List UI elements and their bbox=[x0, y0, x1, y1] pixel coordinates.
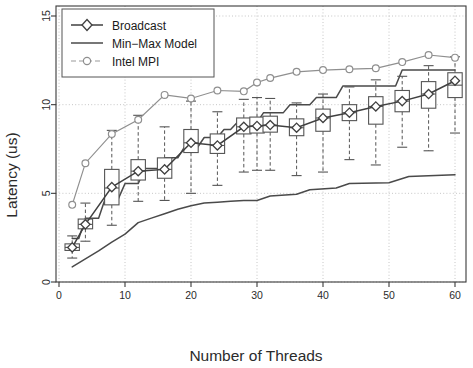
y-tick-label: 0 bbox=[40, 279, 52, 285]
intel-mpi-point bbox=[214, 87, 221, 94]
intel-mpi-point bbox=[346, 66, 353, 73]
y-tick-label: 5 bbox=[40, 190, 52, 196]
intel-mpi-point bbox=[320, 67, 327, 74]
intel-mpi-point bbox=[188, 95, 195, 102]
legend-label-broadcast: Broadcast bbox=[112, 19, 167, 33]
circle-marker-icon bbox=[83, 57, 90, 64]
intel-mpi-point bbox=[399, 59, 406, 66]
intel-mpi-point bbox=[135, 116, 142, 123]
intel-mpi-point bbox=[82, 160, 89, 167]
legend-label-minmax-model: Min−Max Model bbox=[112, 37, 197, 51]
legend-label-intel-mpi: Intel MPI bbox=[112, 55, 159, 69]
intel-mpi-point bbox=[425, 52, 432, 59]
intel-mpi-point bbox=[161, 92, 168, 99]
intel-mpi-point bbox=[293, 68, 300, 75]
intel-mpi-point bbox=[254, 79, 261, 86]
chart-figure: 0102030405060051015 Number of Threads La… bbox=[0, 0, 473, 368]
y-tick-label: 10 bbox=[40, 99, 52, 111]
latency-vs-threads-chart: 0102030405060051015 Number of Threads La… bbox=[0, 0, 473, 368]
chart-legend: Broadcast Min−Max Model Intel MPI bbox=[62, 9, 214, 77]
intel-mpi-point bbox=[108, 131, 115, 138]
y-axis-title: Latency (us) bbox=[3, 132, 20, 217]
intel-mpi-point bbox=[372, 65, 379, 72]
x-axis-title: Number of Threads bbox=[189, 347, 322, 364]
x-tick-label: 30 bbox=[251, 289, 263, 301]
x-tick-label: 50 bbox=[383, 289, 395, 301]
intel-mpi-point bbox=[452, 54, 459, 61]
x-tick-label: 0 bbox=[56, 289, 62, 301]
intel-mpi-point bbox=[69, 201, 76, 208]
y-tick-label: 15 bbox=[40, 10, 52, 22]
x-tick-label: 10 bbox=[119, 289, 131, 301]
x-tick-label: 40 bbox=[317, 289, 329, 301]
x-tick-label: 20 bbox=[185, 289, 197, 301]
intel-mpi-point bbox=[267, 75, 274, 82]
x-tick-label: 60 bbox=[449, 289, 461, 301]
intel-mpi-point bbox=[240, 88, 247, 95]
